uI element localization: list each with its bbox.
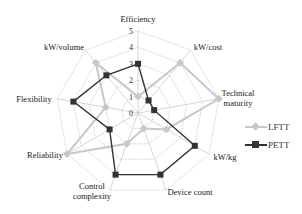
tick-label: 4 — [129, 43, 133, 52]
spoke — [110, 113, 138, 190]
legend: LFTT PETT — [245, 118, 302, 154]
tick-label: 2 — [129, 76, 133, 85]
legend-pett-square-icon — [245, 140, 267, 150]
axis-labels: EfficiencykW/costTechnicalmaturitykW/kgD… — [16, 14, 255, 201]
square-marker-icon — [103, 72, 109, 78]
legend-item-lftt: LFTT — [245, 118, 302, 136]
spoke — [138, 113, 209, 154]
axis-label-kw-kg: kW/kg — [213, 152, 237, 162]
axis-label-kw-volume: kW/volume — [44, 42, 84, 52]
diamond-marker-icon — [162, 125, 170, 133]
axis-label-reliability: Reliability — [27, 150, 64, 160]
tick-label: 5 — [129, 27, 133, 36]
series-line-lftt — [67, 63, 219, 154]
tick-label: 0 — [129, 109, 133, 118]
spoke — [138, 50, 191, 113]
axis-label-control-complexity: Controlcomplexity — [73, 181, 112, 201]
square-marker-icon — [135, 61, 141, 67]
square-marker-icon — [146, 97, 152, 103]
square-marker-icon — [192, 143, 198, 149]
radar-chart: 012345 EfficiencykW/costTechnicalmaturit… — [0, 0, 302, 214]
spoke — [138, 113, 166, 190]
spoke — [57, 99, 138, 113]
axis-label-kw-cost: kW/cost — [194, 42, 223, 52]
legend-label-pett: PETT — [268, 140, 290, 150]
axis-label-technical-maturity: Technicalmaturity — [222, 88, 256, 108]
series-line-pett — [73, 64, 194, 175]
tick-label: 1 — [129, 93, 133, 102]
square-marker-icon — [157, 172, 163, 178]
axis-label-efficiency: Efficiency — [120, 14, 156, 24]
legend-item-pett: PETT — [245, 136, 302, 154]
axis-label-flexibility: Flexibility — [16, 94, 52, 104]
square-marker-icon — [70, 99, 76, 105]
axis-label-device-count: Device count — [167, 187, 213, 197]
square-marker-icon — [113, 172, 119, 178]
legend-label-lftt: LFTT — [268, 122, 290, 132]
legend-lftt-diamond-icon — [245, 122, 267, 132]
square-marker-icon — [107, 126, 113, 132]
square-marker-icon — [151, 107, 157, 113]
data-series — [63, 59, 223, 178]
